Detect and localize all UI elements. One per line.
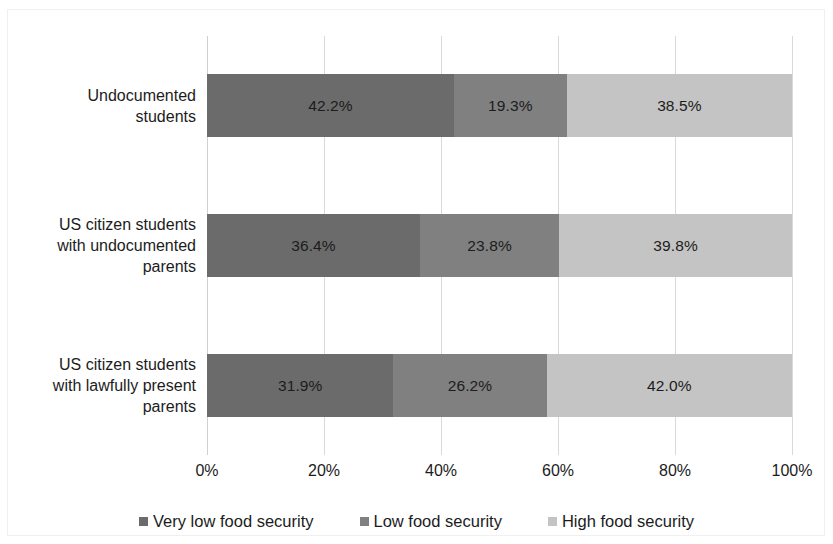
stacked-bar-row[interactable]: 36.4%23.8%39.8% — [207, 214, 792, 277]
legend-label: High food security — [562, 512, 694, 531]
bar-value-label: 23.8% — [467, 237, 511, 255]
bar-value-label: 42.2% — [308, 97, 352, 115]
legend-item-3[interactable]: High food security — [548, 512, 694, 531]
chart-canvas: Undocumented studentsUS citizen students… — [0, 0, 833, 544]
bar-segment-2[interactable]: 26.2% — [393, 354, 546, 417]
category-axis-labels: Undocumented studentsUS citizen students… — [0, 36, 196, 455]
legend-square-icon — [360, 517, 369, 526]
stacked-bar-row[interactable]: 31.9%26.2%42.0% — [207, 354, 792, 417]
bar-segment-2[interactable]: 19.3% — [454, 74, 567, 137]
legend-item-1[interactable]: Very low food security — [139, 512, 314, 531]
category-label: US citizen students with undocumented pa… — [4, 214, 196, 277]
bar-value-label: 38.5% — [657, 97, 701, 115]
bar-segment-1[interactable]: 42.2% — [207, 74, 454, 137]
gridline-100pct — [792, 36, 793, 455]
x-tick-label: 0% — [195, 462, 218, 480]
category-label: US citizen students with lawfully presen… — [4, 354, 196, 417]
bar-segment-2[interactable]: 23.8% — [420, 214, 559, 277]
legend-label: Low food security — [374, 512, 502, 531]
bar-segment-1[interactable]: 31.9% — [207, 354, 393, 417]
bar-segment-1[interactable]: 36.4% — [207, 214, 420, 277]
x-tick-label: 20% — [308, 462, 340, 480]
bar-segment-3[interactable]: 38.5% — [567, 74, 792, 137]
legend-square-icon — [139, 517, 148, 526]
x-tick-label: 100% — [772, 462, 813, 480]
x-tick-label: 40% — [425, 462, 457, 480]
x-tick-label: 80% — [659, 462, 691, 480]
legend-square-icon — [548, 517, 557, 526]
bar-segment-3[interactable]: 39.8% — [559, 214, 792, 277]
category-label: Undocumented students — [4, 85, 196, 127]
stacked-bar-row[interactable]: 42.2%19.3%38.5% — [207, 74, 792, 137]
plot-area: 42.2%19.3%38.5%36.4%23.8%39.8%31.9%26.2%… — [207, 36, 792, 455]
bar-value-label: 26.2% — [448, 377, 492, 395]
x-tick-label: 60% — [542, 462, 574, 480]
bar-value-label: 19.3% — [488, 97, 532, 115]
bar-value-label: 31.9% — [278, 377, 322, 395]
bar-value-label: 36.4% — [291, 237, 335, 255]
bar-value-label: 42.0% — [647, 377, 691, 395]
chart-legend: Very low food securityLow food securityH… — [0, 506, 833, 536]
legend-item-2[interactable]: Low food security — [360, 512, 502, 531]
bar-segment-3[interactable]: 42.0% — [547, 354, 792, 417]
legend-label: Very low food security — [153, 512, 314, 531]
bar-value-label: 39.8% — [653, 237, 697, 255]
x-axis-tick-labels: 0%20%40%60%80%100% — [207, 462, 792, 486]
